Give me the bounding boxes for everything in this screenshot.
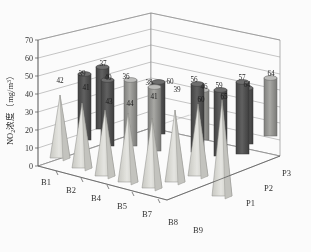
y-tick-50: 50 [25, 72, 33, 81]
depth-label-p1: P1 [246, 198, 255, 208]
y-title-no: NO [5, 133, 15, 145]
value-label-38: 38 [145, 79, 153, 87]
x-label-b5: B5 [117, 201, 127, 211]
value-label-60b: 60 [197, 96, 205, 104]
value-label-36: 36 [122, 73, 130, 81]
y-tick-10: 10 [25, 144, 33, 153]
y-title-rest: 浓度（mg/m [5, 83, 15, 130]
x-label-b2: B2 [66, 185, 76, 195]
value-label-46: 46 [200, 83, 208, 91]
y-tick-60: 60 [25, 54, 33, 63]
y-tick-0: 0 [29, 162, 33, 171]
value-label-60: 60 [166, 78, 174, 86]
value-label-64: 64 [243, 81, 251, 89]
chart-3d-column: 70 60 50 40 30 20 10 0 NO2浓度（mg/m3） [0, 0, 311, 252]
value-label-40: 40 [104, 74, 112, 82]
value-label-41b: 41 [150, 93, 158, 101]
value-label-41: 41 [82, 84, 90, 92]
x-label-b9: B9 [193, 225, 203, 235]
value-label-39: 39 [78, 70, 86, 78]
value-label-65: 65 [220, 93, 228, 101]
x-label-b1: B1 [41, 177, 51, 187]
x-label-b7: B7 [142, 209, 152, 219]
y-title-tail: ） [5, 71, 15, 80]
value-label-56: 56 [190, 76, 198, 84]
value-label-44: 44 [126, 100, 134, 108]
depth-label-p2: P2 [264, 183, 273, 193]
y-tick-30: 30 [25, 108, 33, 117]
y-tick-70: 70 [25, 36, 33, 45]
depth-label-p3: P3 [282, 168, 291, 178]
bar-p3-p3 [264, 76, 277, 136]
y-tick-20: 20 [25, 126, 33, 135]
bar-p1-p2 [236, 80, 249, 154]
value-label-39b: 39 [173, 86, 181, 94]
x-label-b4: B4 [91, 193, 102, 203]
y-tick-40: 40 [25, 90, 33, 99]
value-label-42: 42 [56, 77, 64, 85]
value-label-59: 59 [215, 82, 223, 90]
chart-svg: 70 60 50 40 30 20 10 0 NO2浓度（mg/m3） [0, 0, 311, 252]
value-label-64b: 64 [267, 70, 275, 78]
value-label-43: 43 [105, 98, 113, 106]
value-label-37: 37 [99, 60, 107, 68]
x-label-b8: B8 [168, 217, 178, 227]
